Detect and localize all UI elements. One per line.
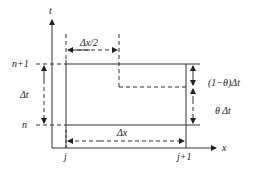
- node-j-label: j: [64, 152, 67, 162]
- x-axis-label: x: [222, 143, 226, 153]
- one-minus-theta-dt-label: (1−θ)Δt: [208, 78, 240, 88]
- half-dx-label: Δx/2: [80, 38, 98, 48]
- level-n-label: n: [22, 120, 27, 130]
- dt-label: Δt: [20, 90, 29, 100]
- t-axis-label: t: [49, 6, 52, 16]
- level-n1-label: n+1: [12, 59, 29, 69]
- dx-label: Δx: [117, 128, 127, 138]
- node-j1-label: j+1: [177, 152, 192, 162]
- theta-dt-label: θ Δt: [215, 106, 231, 116]
